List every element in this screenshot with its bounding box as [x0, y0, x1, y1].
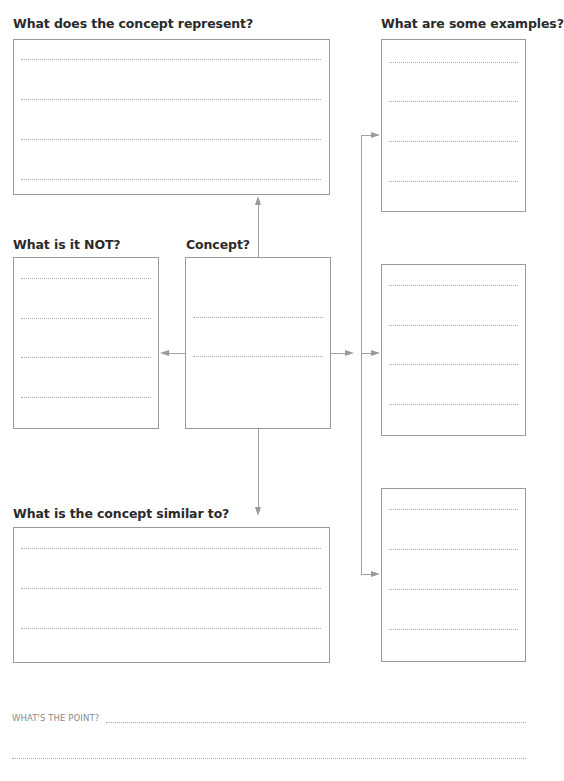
writing-line — [193, 317, 323, 318]
writing-line — [389, 62, 518, 63]
writing-line — [21, 588, 321, 589]
label-what-is-concept-similar-to: What is the concept similar to? — [13, 506, 229, 521]
writing-line — [389, 549, 518, 550]
connector-right — [331, 353, 346, 354]
writing-line — [389, 509, 518, 510]
arrow-down-icon — [255, 507, 261, 516]
writing-line — [389, 285, 518, 286]
writing-line — [21, 278, 151, 279]
writing-line — [21, 139, 321, 140]
arrow-up-icon — [255, 196, 261, 205]
whats-the-point-label: WHAT'S THE POINT? — [12, 713, 99, 723]
not-box[interactable] — [13, 257, 159, 429]
arrow-right-icon — [371, 571, 380, 577]
label-what-are-examples: What are some examples? — [381, 16, 564, 31]
connector-down — [258, 429, 259, 509]
writing-line — [21, 397, 151, 398]
writing-line — [21, 318, 151, 319]
writing-line — [389, 629, 518, 630]
writing-line — [389, 141, 518, 142]
arrow-right-icon — [371, 350, 380, 356]
examples-box-1[interactable] — [381, 39, 526, 212]
label-what-is-it-not: What is it NOT? — [13, 237, 121, 252]
writing-line — [21, 99, 321, 100]
whats-the-point-line[interactable] — [106, 722, 526, 723]
writing-line — [21, 357, 151, 358]
writing-line — [389, 589, 518, 590]
writing-line — [21, 59, 321, 60]
writing-line — [193, 356, 323, 357]
examples-box-2[interactable] — [381, 264, 526, 436]
writing-line — [21, 628, 321, 629]
arrow-right-icon — [371, 132, 380, 138]
writing-line — [389, 325, 518, 326]
concept-box[interactable] — [185, 257, 331, 429]
label-concept: Concept? — [186, 237, 250, 252]
arrow-right-icon — [345, 350, 354, 356]
represent-box[interactable] — [13, 39, 330, 195]
connector-up — [258, 204, 259, 257]
writing-line — [21, 179, 321, 180]
writing-line — [389, 364, 518, 365]
connector-left — [168, 353, 185, 354]
label-what-does-concept-represent: What does the concept represent? — [13, 16, 253, 31]
writing-line — [21, 548, 321, 549]
examples-box-3[interactable] — [381, 488, 526, 662]
writing-line — [389, 181, 518, 182]
writing-line — [389, 404, 518, 405]
arrow-left-icon — [160, 350, 169, 356]
writing-line — [389, 101, 518, 102]
connector-vertical-bus — [361, 135, 362, 575]
whats-the-point-line-2[interactable] — [12, 758, 526, 759]
